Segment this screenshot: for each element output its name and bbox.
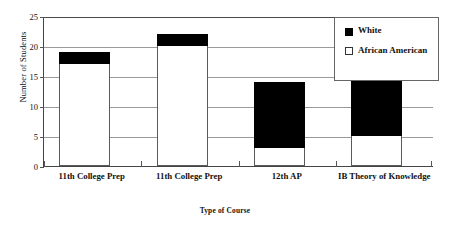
x-axis-tick-mark [239, 161, 240, 167]
bar-segment-white[interactable] [254, 82, 305, 148]
filled-square-icon [345, 28, 353, 36]
x-axis-tick-mark [141, 161, 142, 167]
hollow-square-icon [345, 47, 353, 55]
x-axis-tick-labels: 11th College Prep11th College Prep12th A… [43, 171, 433, 183]
stacked-bar[interactable] [157, 34, 208, 166]
x-axis-tick-label: 11th College Prep [43, 171, 141, 183]
x-axis-tick-mark [44, 161, 45, 167]
bar-segment-african-american[interactable] [254, 148, 305, 166]
x-axis-tick-label: 12th AP [238, 171, 336, 183]
x-axis-tick-label: 11th College Prep [141, 171, 239, 183]
legend-item[interactable]: White [345, 25, 438, 36]
y-axis-title: Number of Students [18, 0, 28, 142]
x-axis-tick-label: IB Theory of Knowledge [336, 171, 434, 183]
legend: WhiteAfrican American [334, 17, 439, 81]
legend-item[interactable]: African American [345, 45, 438, 56]
bar-segment-african-american[interactable] [59, 64, 110, 166]
bar-slot [239, 17, 336, 166]
bar-segment-white[interactable] [157, 34, 208, 46]
x-axis-title: Type of Course [0, 206, 450, 215]
bar-segment-african-american[interactable] [351, 136, 402, 166]
y-axis-tick-mark [40, 167, 44, 168]
legend-item-label: African American [358, 45, 427, 56]
bar-chart-figure: Number of Students 0510152025 11th Colle… [0, 0, 450, 225]
x-axis-tick-mark [336, 161, 337, 167]
stacked-bar[interactable] [254, 82, 305, 166]
x-axis-tick-mark [431, 161, 432, 167]
bar-slot [141, 17, 238, 166]
bar-segment-white[interactable] [59, 52, 110, 64]
stacked-bar[interactable] [59, 52, 110, 166]
legend-item-label: White [358, 25, 382, 36]
bar-segment-african-american[interactable] [157, 46, 208, 166]
bar-slot [44, 17, 141, 166]
